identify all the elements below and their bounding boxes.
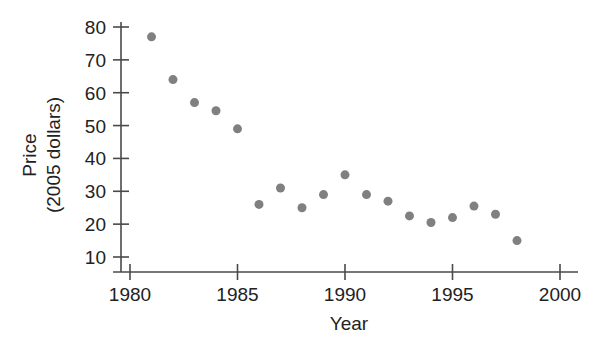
- data-point-1994: [427, 218, 436, 227]
- x-tick-label-1980: 1980: [109, 284, 151, 305]
- x-tick-label-1995: 1995: [431, 284, 473, 305]
- data-point-1982: [169, 75, 178, 84]
- y-tick-label-50: 50: [85, 116, 106, 137]
- y-tick-label-10: 10: [85, 247, 106, 268]
- scatter-plot-figure: 1020304050607080 19801985199019952000 Pr…: [0, 0, 612, 348]
- data-point-1990: [341, 170, 350, 179]
- data-point-1993: [405, 211, 414, 220]
- y-tick-label-80: 80: [85, 17, 106, 38]
- data-point-1996: [470, 202, 479, 211]
- data-point-1986: [255, 200, 264, 209]
- y-tick-label-30: 30: [85, 181, 106, 202]
- data-point-1981: [147, 32, 156, 41]
- data-point-1991: [362, 190, 371, 199]
- y-tick-label-60: 60: [85, 83, 106, 104]
- x-axis-title: Year: [330, 313, 369, 334]
- y-tick-label-20: 20: [85, 214, 106, 235]
- x-tick-label-1985: 1985: [216, 284, 258, 305]
- data-point-1989: [319, 190, 328, 199]
- x-tick-label-2000: 2000: [539, 284, 581, 305]
- data-point-1995: [448, 213, 457, 222]
- data-point-1997: [491, 210, 500, 219]
- x-tick-label-1990: 1990: [324, 284, 366, 305]
- data-point-1984: [212, 106, 221, 115]
- data-point-1985: [233, 124, 242, 133]
- chart-canvas: 1020304050607080 19801985199019952000 Pr…: [0, 0, 612, 348]
- data-point-1987: [276, 184, 285, 193]
- data-point-1998: [513, 236, 522, 245]
- data-point-1983: [190, 98, 199, 107]
- y-axis-title-line1: Price: [19, 133, 40, 176]
- y-axis-title-line2: (2005 dollars): [43, 97, 64, 213]
- data-point-1988: [298, 203, 307, 212]
- data-point-1992: [384, 197, 393, 206]
- y-tick-label-70: 70: [85, 50, 106, 71]
- y-tick-label-40: 40: [85, 148, 106, 169]
